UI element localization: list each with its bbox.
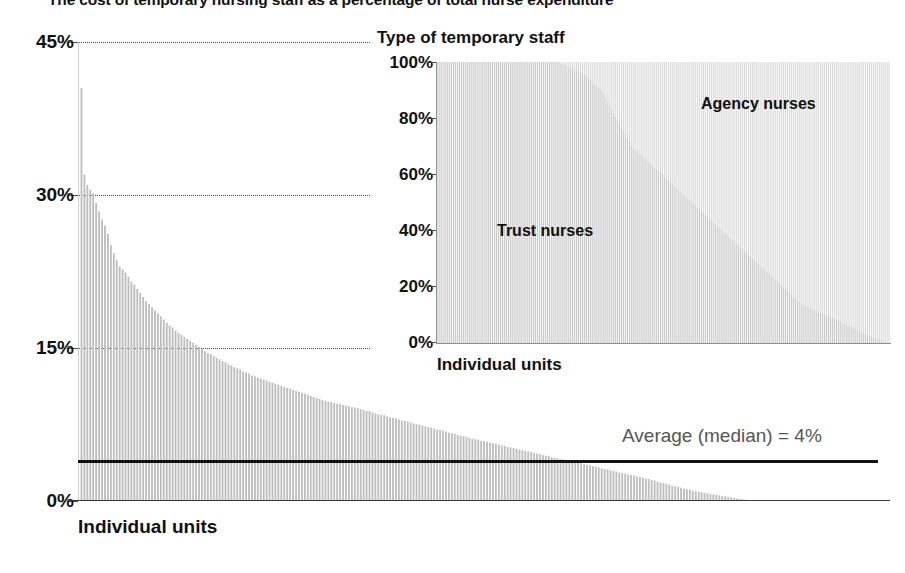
inset-series-label-agency: Agency nurses xyxy=(701,95,816,113)
inset-ytick-mark-0 xyxy=(428,342,436,343)
median-annotation-label: Average (median) = 4% xyxy=(622,425,822,447)
inset-title: Type of temporary staff xyxy=(377,28,565,48)
inset-series-label-trust: Trust nurses xyxy=(497,222,593,240)
ytick-label-0: 0% xyxy=(12,490,74,512)
inset-ytick-label-60: 60% xyxy=(377,165,433,185)
inset-ytick-mark-80 xyxy=(428,118,436,119)
inset-ytick-mark-100 xyxy=(428,62,436,63)
inset-bars-svg xyxy=(437,62,890,343)
inset-ytick-label-100: 100% xyxy=(377,53,433,73)
figure-root: The cost of temporary nursing staff as a… xyxy=(0,0,905,573)
main-y-axis-line xyxy=(78,42,79,501)
inset-xaxis-label: Individual units xyxy=(437,355,562,375)
inset-ytick-label-80: 80% xyxy=(377,109,433,129)
inset-ytick-label-0: 0% xyxy=(377,333,433,353)
inset-ytick-mark-20 xyxy=(428,286,436,287)
ytick-label-15: 15% xyxy=(12,337,74,359)
ytick-label-30: 30% xyxy=(12,184,74,206)
inset-ytick-mark-60 xyxy=(428,174,436,175)
median-reference-line xyxy=(78,460,878,463)
main-xaxis-label: Individual units xyxy=(78,516,217,538)
inset-x-axis-line xyxy=(436,343,891,344)
inset-ytick-label-20: 20% xyxy=(377,277,433,297)
inset-ytick-label-40: 40% xyxy=(377,221,433,241)
main-x-axis-line xyxy=(68,500,890,501)
inset-bars-group xyxy=(437,62,890,343)
ytick-label-45: 45% xyxy=(12,31,74,53)
inset-ytick-mark-40 xyxy=(428,230,436,231)
